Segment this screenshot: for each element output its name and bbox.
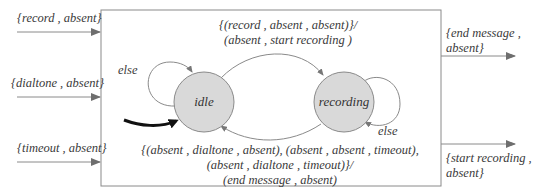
output-start-recording-line2: absent} [446, 166, 532, 181]
idle-self-loop-label: else [118, 63, 137, 78]
initial-state-arrow [124, 120, 176, 125]
transition-idle-to-recording [221, 54, 323, 78]
transition-recording-to-idle [221, 124, 321, 140]
transition-idle-to-recording-line2: (absent , start recording ) [208, 33, 368, 48]
output-label-end-message: {end message , absent} [446, 26, 521, 56]
input-label-dialtone: {dialtone , absent} [11, 76, 104, 91]
transition-recording-to-idle-line2: (absent , dialtone , timeout)}/ [130, 158, 430, 173]
output-label-start-recording: {start recording , absent} [446, 151, 532, 181]
state-idle-label: idle [174, 94, 234, 110]
recording-self-loop-label: else [378, 124, 397, 139]
transition-recording-to-idle-line1: {(absent , dialtone , absent), (absent ,… [130, 143, 430, 158]
state-recording-label: recording [310, 94, 378, 110]
transition-label-recording-to-idle: {(absent , dialtone , absent), (absent ,… [130, 143, 430, 188]
output-end-message-line2: absent} [446, 41, 521, 56]
transition-idle-to-recording-line1: {(record , absent , absent)}/ [208, 18, 368, 33]
output-start-recording-line1: {start recording , [446, 151, 532, 166]
output-end-message-line1: {end message , [446, 26, 521, 41]
input-label-record: {record , absent} [17, 11, 101, 26]
transition-recording-to-idle-line3: (end message , absent) [130, 173, 430, 188]
input-label-timeout: {timeout , absent} [17, 141, 107, 156]
transition-label-idle-to-recording: {(record , absent , absent)}/ (absent , … [208, 18, 368, 48]
